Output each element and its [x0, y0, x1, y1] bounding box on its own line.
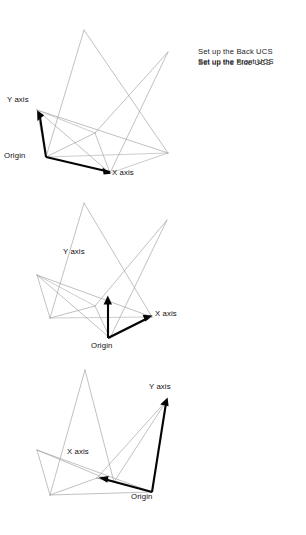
back-wireframe — [37, 370, 167, 495]
caption-back-ucs: Set up the Back UCS — [198, 47, 273, 57]
diagram-side-ucs: Y axis Origin X axis — [0, 178, 306, 358]
front-ucs-drawing — [0, 0, 306, 180]
side-y-axis-label: Y axis — [63, 247, 85, 256]
back-y-axis-label: Y axis — [149, 382, 171, 391]
front-x-axis-label: X axis — [112, 168, 134, 177]
side-x-axis-label: X axis — [155, 309, 177, 318]
side-ucs-drawing — [0, 178, 306, 358]
illustration-stage: Y axis Origin X axis Set up the Front UC… — [0, 0, 306, 535]
back-ucs-axes — [99, 398, 169, 493]
back-x-axis-label: X axis — [67, 447, 89, 456]
front-origin-label: Origin — [4, 151, 25, 160]
back-origin-label: Origin — [131, 492, 152, 501]
front-wireframe — [37, 30, 168, 173]
caption-side-ucs: Set up the Side UCS — [198, 58, 271, 68]
front-y-axis-label: Y axis — [7, 95, 29, 104]
diagram-front-ucs: Y axis Origin X axis — [0, 0, 306, 180]
side-origin-label: Origin — [91, 341, 112, 350]
diagram-back-ucs: Y axis Origin X axis — [0, 355, 306, 535]
